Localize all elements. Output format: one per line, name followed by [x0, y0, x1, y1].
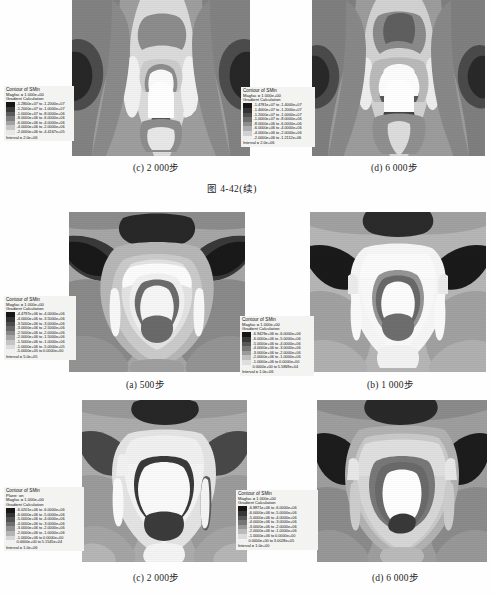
- legend-bot-c: Contour of SMin Plane: on Magfac = 1.000…: [4, 487, 84, 551]
- legend-rows: -6.8871e+06 to -6.0000e+06 -6.0000e+06 t…: [238, 506, 316, 543]
- legend-interval: Interval = 2.0e+06: [6, 136, 72, 140]
- contour-plot-bot-c: [82, 400, 247, 562]
- legend-interval: Interval = 1.0e+06: [242, 370, 312, 374]
- legend-swatch: [6, 130, 15, 135]
- panel-caption-bot-c: (c) 2 000步: [133, 570, 179, 584]
- legend-rows: -1.2800e+07 to -1.2000e+07 -1.2000e+07 t…: [6, 102, 72, 134]
- legend-interval: Interval = 5.0e+05: [6, 355, 74, 359]
- panel-caption-top-d: (d) 6 000步: [371, 160, 418, 174]
- panel-caption-mid-a: (a) 500步: [126, 377, 165, 391]
- legend-rows: -6.0201e+06 to -6.0000e+06 -6.0000e+06 t…: [6, 508, 82, 545]
- legend-bot-d: Contour of SMin Magfac = 1.000e+00 Gradi…: [236, 490, 318, 550]
- panel-caption-mid-b: (b) 1 000步: [367, 377, 414, 391]
- legend-rows: -1.4781e+07 to -1.4000e+07 -1.4000e+07 t…: [243, 103, 313, 140]
- legend-mid-b: Contour of SMin Magfac = 1.000e+00 Gradi…: [240, 316, 314, 376]
- legend-row: -2.0000e+06 to -4.4167e+05: [6, 130, 72, 135]
- legend-top-c: Contour of SMin Magfac = 1.000e+00 Gradi…: [4, 86, 74, 141]
- legend-interval: Interval = 1.0e+06: [6, 546, 82, 550]
- contour-plot-bot-d: [317, 400, 487, 562]
- legend-row-label: -2.0000e+06 to -4.4167e+05: [17, 130, 65, 135]
- panel-caption-top-c: (c) 2 000步: [133, 160, 179, 174]
- legend-rows: -6.9429e+06 to -6.0000e+06 -6.0000e+06 t…: [242, 332, 312, 369]
- contour-plot-mid-a: [69, 212, 245, 372]
- contour-plot-mid-b: [310, 212, 486, 372]
- legend-interval: Interval = 1.0e+00: [238, 544, 316, 548]
- contour-plot-top-d: [312, 0, 485, 156]
- book-page: Contour of SMin Magfac = 1.000e+00 Gradi…: [0, 0, 493, 595]
- contour-plot-top-c: [72, 0, 250, 156]
- legend-rows: -4.4797e+06 to -4.0000e+06 -4.0000e+06 t…: [6, 312, 74, 353]
- legend-top-d: Contour of SMin Magfac = 1.000e+00 Gradi…: [241, 87, 315, 147]
- figure-number: 图 4-42(续): [207, 181, 257, 195]
- panel-caption-bot-d: (d) 6 000步: [372, 570, 419, 584]
- legend-interval: Interval = 2.0e+06: [243, 141, 313, 145]
- legend-mid-a: Contour of SMin Magfac = 1.000e+00 Gradi…: [4, 296, 76, 360]
